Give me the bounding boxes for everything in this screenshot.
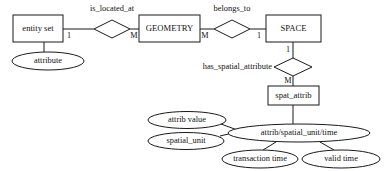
card-geometry-belongsto: M bbox=[201, 31, 209, 40]
attributes-layer: attributeattrib valuespatial_unitattrib/… bbox=[12, 52, 380, 168]
card-belongsto-space: 1 bbox=[257, 31, 261, 40]
relationship-diamond-has_spatial_attribute[interactable] bbox=[274, 58, 312, 76]
relationship-diamond-is_located_at[interactable] bbox=[94, 20, 130, 38]
attribute-label-attribute: attribute bbox=[34, 56, 62, 65]
conn-center-validtime bbox=[320, 142, 334, 150]
attribute-label-valid_time: valid time bbox=[324, 154, 358, 163]
relationship-label-is_located_at: is_located_at bbox=[90, 4, 135, 13]
er-diagram-svg: is_located_atbelongs_tohas_spatial_attri… bbox=[0, 0, 385, 171]
attribute-label-transaction_time: transaction time bbox=[233, 154, 287, 163]
relationship-label-has_spatial_attribute: has_spatial_attribute bbox=[203, 62, 273, 71]
entity-label-geometry: GEOMETRY bbox=[146, 23, 193, 33]
entity-label-space: SPACE bbox=[281, 23, 307, 33]
card-space-hasspatialattribute: 1 bbox=[286, 45, 290, 54]
relationship-diamond-belongs_to[interactable] bbox=[214, 20, 250, 38]
attribute-label-attrib_value: attrib value bbox=[168, 115, 206, 124]
relationship-label-belongs_to: belongs_to bbox=[214, 4, 251, 13]
entity-label-entity_set: entity set bbox=[22, 23, 54, 33]
card-islocatedat-geometry: M bbox=[130, 31, 138, 40]
card-entityset-islocatedat: 1 bbox=[67, 31, 71, 40]
card-hasspatialattribute-spatattrib: M bbox=[284, 76, 292, 85]
conn-center-transactiontime bbox=[263, 142, 276, 150]
attribute-label-attrib_spatial_unit_time: attrib/spatial_unit/time bbox=[261, 128, 338, 137]
er-diagram-canvas: is_located_atbelongs_tohas_spatial_attri… bbox=[0, 0, 385, 171]
attribute-label-spatial_unit: spatial_unit bbox=[166, 136, 206, 145]
entity-label-spat_attrib: spat_attrib bbox=[275, 90, 311, 100]
